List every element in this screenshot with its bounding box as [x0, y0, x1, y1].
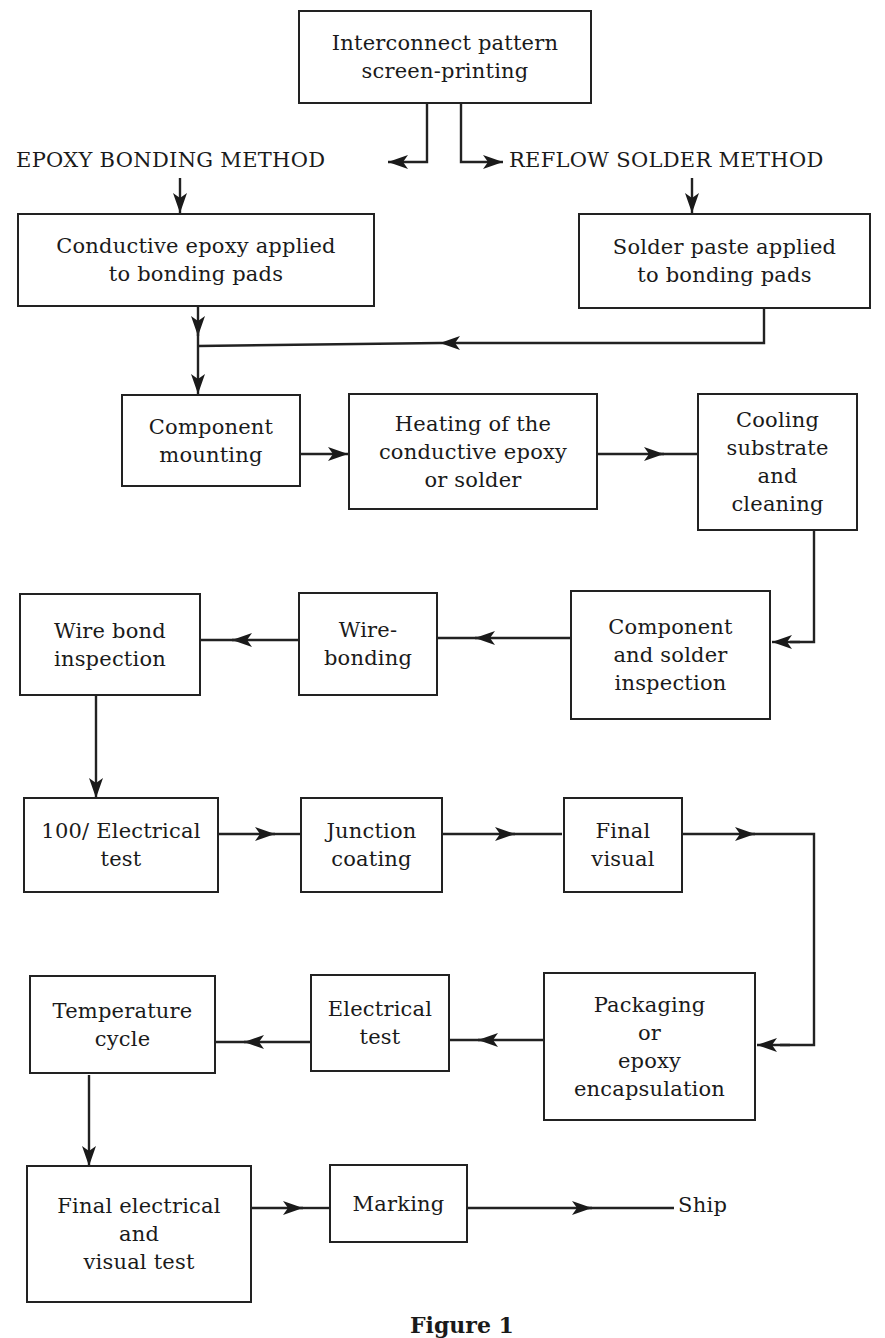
node-interconnect-screen-printing: Interconnect pattern screen-printing: [298, 10, 592, 104]
node-temperature-cycle: Temperature cycle: [29, 975, 216, 1074]
label-reflow-solder-method: REFLOW SOLDER METHOD: [509, 148, 824, 172]
node-label: Interconnect pattern screen-printing: [332, 29, 558, 85]
node-label: Packaging or epoxy encapsulation: [574, 991, 725, 1103]
node-label: Cooling substrate and cleaning: [726, 406, 828, 518]
node-conductive-epoxy-applied: Conductive epoxy applied to bonding pads: [17, 213, 375, 307]
node-label: Temperature cycle: [53, 997, 193, 1053]
node-packaging-encapsulation: Packaging or epoxy encapsulation: [543, 972, 756, 1121]
node-wire-bonding: Wire- bonding: [298, 592, 438, 696]
node-100-electrical-test: 100/ Electrical test: [23, 797, 219, 893]
node-label: Conductive epoxy applied to bonding pads: [56, 232, 336, 288]
node-component-mounting: Component mounting: [121, 394, 301, 487]
node-final-visual: Final visual: [563, 797, 683, 893]
node-solder-paste-applied: Solder paste applied to bonding pads: [578, 213, 871, 309]
node-label: Junction coating: [326, 817, 416, 873]
node-label: Final visual: [591, 817, 654, 873]
node-junction-coating: Junction coating: [300, 797, 443, 893]
node-label: 100/ Electrical test: [41, 817, 200, 873]
terminal-ship: Ship: [678, 1193, 727, 1217]
node-label: Component mounting: [149, 413, 273, 469]
node-label: Solder paste applied to bonding pads: [613, 233, 836, 289]
node-label: Wire bond inspection: [54, 617, 166, 673]
node-final-electrical-visual-test: Final electrical and visual test: [26, 1165, 252, 1303]
node-marking: Marking: [329, 1164, 468, 1243]
node-electrical-test: Electrical test: [310, 974, 450, 1072]
node-label: Final electrical and visual test: [57, 1192, 220, 1276]
node-label: Marking: [353, 1190, 445, 1218]
node-cooling-substrate-cleaning: Cooling substrate and cleaning: [697, 393, 858, 531]
figure-caption: Figure 1: [410, 1312, 514, 1338]
node-component-solder-inspection: Component and solder inspection: [570, 590, 771, 720]
node-label: Component and solder inspection: [608, 613, 732, 697]
node-label: Wire- bonding: [324, 616, 412, 672]
node-label: Electrical test: [328, 995, 432, 1051]
node-label: Heating of the conductive epoxy or solde…: [379, 410, 567, 494]
node-heating: Heating of the conductive epoxy or solde…: [348, 393, 598, 510]
node-wire-bond-inspection: Wire bond inspection: [19, 593, 201, 696]
label-epoxy-bonding-method: EPOXY BONDING METHOD: [16, 148, 325, 172]
